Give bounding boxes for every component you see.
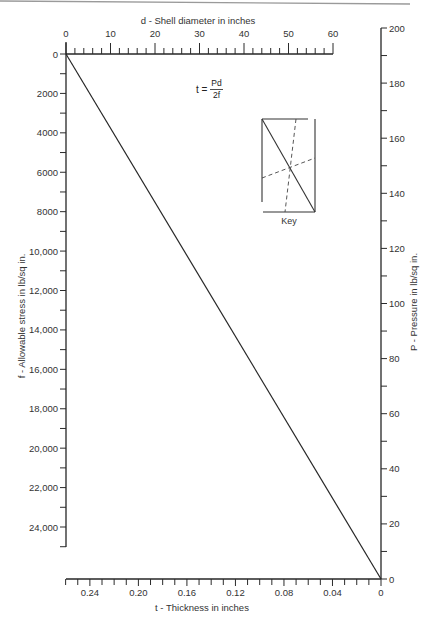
formula-numerator: Pd	[211, 78, 222, 88]
nomograph-chart: 01020304050600200040006000800010,00012,0…	[0, 0, 429, 623]
t-axis-tick-label: 0.16	[178, 587, 197, 598]
index-line	[66, 54, 381, 579]
key-dashed-isopleth-2	[262, 158, 315, 178]
d-axis-tick-label: 10	[105, 28, 116, 39]
t-axis-title: t - Thickness in inches	[155, 602, 249, 613]
d-axis-tick-label: 40	[239, 28, 250, 39]
formula-lhs: t =	[196, 84, 208, 95]
P-axis-tick-label: 80	[389, 353, 400, 364]
f-axis-title: f - Allowable stress in lb/sq in.	[16, 254, 27, 379]
scan-edge-line	[0, 1, 410, 4]
P-axis-tick-label: 160	[389, 133, 405, 144]
key-label: Key	[281, 216, 297, 226]
P-axis-tick-label: 120	[389, 243, 405, 254]
d-axis-title: d - Shell diameter in inches	[141, 15, 256, 26]
f-axis-tick-label: 20,000	[29, 443, 58, 454]
d-axis-tick-label: 50	[283, 28, 294, 39]
t-axis-tick-label: 0.24	[81, 587, 100, 598]
axes-group: 01020304050600200040006000800010,00012,0…	[29, 23, 405, 599]
key-dashed-isopleth-1	[285, 119, 296, 212]
P-axis-tick-label: 200	[389, 23, 405, 34]
t-axis-tick-label: 0.12	[226, 587, 245, 598]
f-axis-tick-label: 18,000	[29, 403, 58, 414]
P-axis-tick-label: 20	[389, 518, 400, 529]
f-axis-tick-label: 2000	[37, 88, 58, 99]
P-axis-tick-label: 180	[389, 78, 405, 89]
P-axis-tick-label: 140	[389, 188, 405, 199]
f-axis-tick-label: 4000	[37, 127, 58, 138]
P-axis-title: P - Pressure in lb/sq in.	[408, 253, 419, 351]
P-axis-tick-label: 40	[389, 463, 400, 474]
f-axis-tick-label: 16,000	[29, 364, 58, 375]
d-axis-tick-label: 20	[150, 28, 161, 39]
key-diagonal-line	[262, 119, 315, 212]
f-axis-tick-label: 14,000	[29, 324, 58, 335]
d-axis-tick-label: 60	[328, 28, 339, 39]
f-axis-tick-label: 8000	[37, 206, 58, 217]
t-axis-tick-label: 0.08	[275, 587, 294, 598]
t-axis-tick-label: 0.04	[323, 587, 342, 598]
f-axis-tick-label: 12,000	[29, 285, 58, 296]
formula: t = Pd 2f	[196, 78, 223, 100]
formula-denominator: 2f	[213, 90, 221, 100]
d-axis-tick-label: 30	[194, 28, 205, 39]
f-axis-tick-label: 0	[53, 49, 58, 60]
P-axis-tick-label: 60	[389, 408, 400, 419]
P-axis-tick-label: 0	[389, 574, 394, 585]
P-axis-tick-label: 100	[389, 298, 405, 309]
d-axis-tick-label: 0	[63, 28, 68, 39]
f-axis-tick-label: 24,000	[29, 522, 58, 533]
t-axis-tick-label: 0.20	[129, 587, 148, 598]
f-axis-tick-label: 22,000	[29, 482, 58, 493]
f-axis-tick-label: 6000	[37, 167, 58, 178]
key-inset: Key	[262, 119, 315, 226]
t-axis-tick-label: 0	[378, 587, 383, 598]
f-axis-tick-label: 10,000	[29, 246, 58, 257]
